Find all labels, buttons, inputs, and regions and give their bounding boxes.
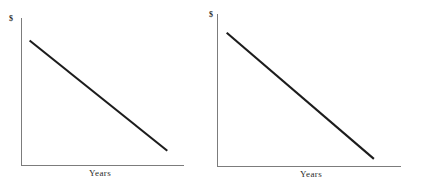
x-axis-label-left: Years — [89, 168, 111, 178]
y-axis-label-right: $ — [209, 10, 213, 19]
x-axis-label-right: Years — [300, 169, 322, 179]
data-line-left — [30, 41, 168, 151]
y-axis-label-left: $ — [9, 14, 13, 23]
chart-canvas-right — [200, 0, 423, 190]
chart-panel-right: $ Years — [200, 0, 423, 190]
chart-canvas-left — [0, 0, 200, 190]
data-line-right — [227, 33, 374, 159]
chart-panel-left: $ Years — [0, 0, 200, 190]
two-panel-line-chart-figure: $ Years $ Years — [0, 0, 423, 190]
